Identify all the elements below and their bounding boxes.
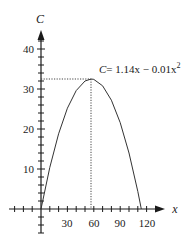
x-tick-label-120: 120: [139, 217, 156, 229]
equation-label: C= 1.14x − 0.01x2: [99, 61, 181, 75]
y-tick-label-20: 20: [23, 123, 35, 135]
x-tick-labels: 30 60 90 120: [62, 217, 156, 229]
x-axis-arrow-icon: [155, 206, 165, 213]
equation-rhs: = 1.14x − 0.01x: [106, 63, 177, 75]
y-axis-arrow-icon: [38, 30, 45, 40]
vertex-guides: [41, 79, 91, 209]
x-tick-label-90: 90: [115, 217, 127, 229]
equation-exponent: 2: [177, 61, 181, 70]
y-tick-label-40: 40: [23, 43, 35, 55]
chart: 40 30 20 10 30 60 90 120 C x C= 1.14x − …: [0, 0, 188, 239]
y-tick-label-10: 10: [23, 163, 35, 175]
y-tick-label-30: 30: [23, 83, 35, 95]
x-tick-label-60: 60: [89, 217, 101, 229]
x-axis-title: x: [171, 202, 178, 216]
y-tick-labels: 40 30 20 10: [23, 43, 35, 175]
y-axis-title: C: [36, 12, 45, 26]
x-tick-label-30: 30: [62, 217, 74, 229]
